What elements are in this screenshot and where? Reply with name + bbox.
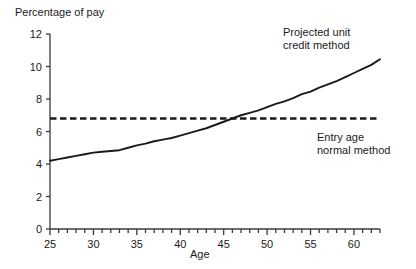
series-line [50, 59, 380, 161]
series-lines [50, 59, 380, 161]
y-tick-label: 0 [36, 223, 42, 235]
x-tick-label: 50 [261, 238, 273, 250]
x-tick-label: 25 [44, 238, 56, 250]
axis-lines [50, 34, 380, 229]
x-tick-label: 35 [131, 238, 143, 250]
y-tick-label: 12 [30, 28, 42, 40]
y-tick-label: 6 [36, 126, 42, 138]
x-tick-label: 40 [174, 238, 186, 250]
chart-figure: Percentage of pay Age Projected unit cre… [0, 0, 416, 269]
y-tick-label: 4 [36, 158, 42, 170]
y-tick-label: 8 [36, 93, 42, 105]
x-tick-label: 55 [304, 238, 316, 250]
x-tick-label: 60 [348, 238, 360, 250]
x-tick-label: 30 [87, 238, 99, 250]
y-tick-label: 2 [36, 191, 42, 203]
plot-area [0, 0, 416, 269]
tick-marks [46, 34, 380, 235]
y-tick-label: 10 [30, 61, 42, 73]
x-tick-label: 45 [218, 238, 230, 250]
